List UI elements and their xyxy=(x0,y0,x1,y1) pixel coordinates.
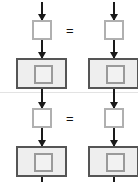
arrow-into-small-square-top-left xyxy=(41,2,43,20)
arrow-into-small-square-top-right xyxy=(113,2,115,20)
inner-square-top-right xyxy=(106,65,125,84)
big-rectangle-top-left xyxy=(16,58,67,89)
big-rectangle-top-right xyxy=(88,58,138,89)
diagram-canvas: = xyxy=(0,0,138,182)
arrow-out-bottom-left xyxy=(41,177,43,182)
small-square-top-right xyxy=(104,20,124,40)
inner-square-bottom-left xyxy=(34,153,53,172)
arrow-square-to-rect-top-right xyxy=(113,40,115,58)
equals-sign-top: = xyxy=(66,24,74,37)
arrow-square-to-rect-bottom-right xyxy=(113,128,115,146)
section-separator xyxy=(0,92,138,93)
inner-square-bottom-right xyxy=(106,153,125,172)
arrow-square-to-rect-bottom-left xyxy=(41,128,43,146)
arrow-into-small-square-bottom-left xyxy=(41,89,43,108)
big-rectangle-bottom-left xyxy=(16,146,67,177)
arrow-out-bottom-right xyxy=(113,177,115,182)
small-square-bottom-right xyxy=(104,108,124,128)
arrow-into-small-square-bottom-right xyxy=(113,89,115,108)
small-square-top-left xyxy=(32,20,52,40)
big-rectangle-bottom-right xyxy=(88,146,138,177)
small-square-bottom-left xyxy=(32,108,52,128)
inner-square-top-left xyxy=(34,65,53,84)
equals-sign-bottom: = xyxy=(66,112,74,125)
arrow-square-to-rect-top-left xyxy=(41,40,43,58)
